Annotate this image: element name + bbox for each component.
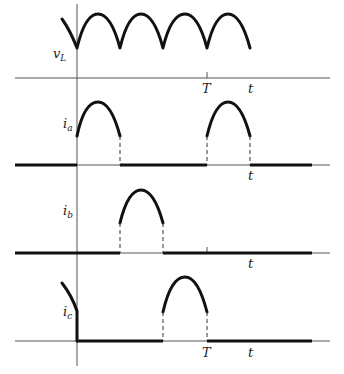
current-c-pulse [163,277,207,312]
panel-ib: ib t [15,190,330,271]
panel-vL: vL T t [15,14,330,96]
load-voltage-waveform [62,14,250,48]
label-t-vL: t [248,81,254,96]
label-t-ia: t [248,168,254,183]
waveform-diagram: vL T t ia t ib t ic T [0,0,344,374]
current-a-pulse-2 [207,102,250,136]
current-b-pulse [120,190,163,223]
label-ic: ic [63,304,72,321]
label-t-ib: t [248,256,254,271]
label-t-ic: t [248,345,254,360]
panel-ic: ic T t [15,277,330,360]
label-ia: ia [63,116,73,133]
label-vL: vL [53,46,66,63]
label-T-ic: T [202,345,212,360]
current-a-pulse-1 [77,102,120,136]
label-ib: ib [63,203,73,220]
label-T-vL: T [202,81,212,96]
panel-ia: ia t [15,102,330,183]
